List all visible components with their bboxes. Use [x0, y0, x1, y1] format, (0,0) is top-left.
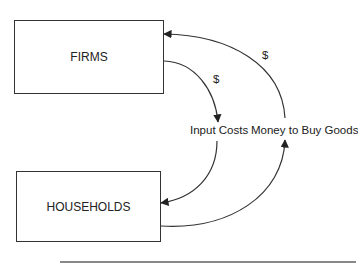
- input-costs-label: Input Costs: [190, 124, 248, 136]
- dollar-outer-label: $: [262, 49, 268, 61]
- bottom-rule: [60, 261, 356, 263]
- money-arrow-bottom: [161, 140, 285, 226]
- money-arrow-top: [164, 34, 285, 118]
- dollar-inner-label: $: [213, 73, 219, 85]
- input-costs-arrow-top: [164, 61, 218, 122]
- input-costs-arrow-bottom: [161, 141, 217, 203]
- money-to-buy-goods-label: Money to Buy Goods: [251, 124, 358, 136]
